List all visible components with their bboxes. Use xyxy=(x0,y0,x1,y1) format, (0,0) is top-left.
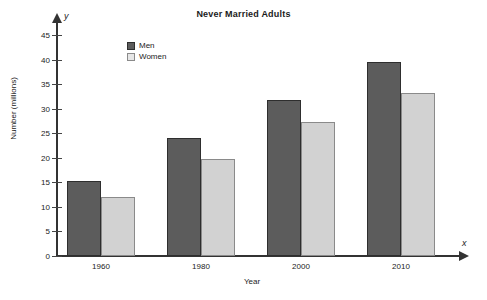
y-axis-variable-label: y xyxy=(64,11,69,21)
y-axis-tick-mark xyxy=(52,182,62,183)
y-axis-tick-label: 20 xyxy=(28,154,50,163)
bar-women-2010 xyxy=(401,93,435,256)
y-axis-tick-label: 0 xyxy=(28,252,50,261)
x-axis-label-1960: 1960 xyxy=(76,262,126,271)
y-axis-tick-mark xyxy=(52,207,62,208)
legend-label: Women xyxy=(139,52,166,61)
y-axis-arrowhead xyxy=(52,13,62,23)
bar-men-2010 xyxy=(367,62,401,256)
y-axis-tick-label: 15 xyxy=(28,178,50,187)
legend-item-women: Women xyxy=(127,51,166,62)
y-axis-tick-label: 40 xyxy=(28,56,50,65)
bar-men-1960 xyxy=(67,181,101,256)
y-axis-tick-mark xyxy=(52,256,62,257)
legend-swatch-men-icon xyxy=(127,42,135,50)
bar-women-2000 xyxy=(301,122,335,256)
y-axis-tick-label: 5 xyxy=(28,227,50,236)
y-axis-tick-mark xyxy=(52,231,62,232)
y-axis-tick-label: 30 xyxy=(28,105,50,114)
y-axis-tick-mark xyxy=(52,35,62,36)
y-axis-tick-label: 10 xyxy=(28,203,50,212)
chart-figure: Never Married Adults y x 051015202530354… xyxy=(0,0,487,300)
x-axis-title: Year xyxy=(57,277,447,286)
x-axis-label-1980: 1980 xyxy=(176,262,226,271)
legend-item-men: Men xyxy=(127,40,166,51)
y-axis-tick-mark xyxy=(52,133,62,134)
legend-swatch-women-icon xyxy=(127,53,135,61)
y-axis-title: Number (millions) xyxy=(9,49,18,169)
x-axis-label-2000: 2000 xyxy=(276,262,326,271)
chart-legend: MenWomen xyxy=(127,40,166,62)
x-axis-variable-label: x xyxy=(462,238,467,248)
bar-women-1960 xyxy=(101,197,135,256)
bar-men-1980 xyxy=(167,138,201,256)
y-axis-tick-label: 35 xyxy=(28,80,50,89)
chart-title: Never Married Adults xyxy=(0,9,487,19)
plot-area xyxy=(57,35,457,256)
y-axis-tick-label: 25 xyxy=(28,129,50,138)
x-axis-arrowhead xyxy=(459,251,469,261)
y-axis-tick-label: 45 xyxy=(28,31,50,40)
y-axis-tick-mark xyxy=(52,84,62,85)
y-axis-tick-mark xyxy=(52,60,62,61)
legend-label: Men xyxy=(139,41,155,50)
bar-women-1980 xyxy=(201,159,235,256)
x-axis-label-2010: 2010 xyxy=(376,262,426,271)
y-axis-tick-mark xyxy=(52,109,62,110)
bar-men-2000 xyxy=(267,100,301,256)
y-axis-tick-mark xyxy=(52,158,62,159)
